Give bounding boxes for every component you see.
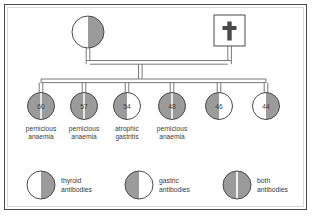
sibship-line [41,79,266,83]
legend-symbol-gastric [125,171,153,199]
sibship-descent-line [139,64,143,79]
legend-label-gastric-line2: antibodies [159,186,190,194]
g1-mother-right-half [88,16,104,48]
legend-label-both-line1: both [257,177,270,185]
legend-gastric-left-half [125,171,139,199]
legend-gastric-right-half [139,171,153,199]
g2-sibling-diagnosis-48-line1: pernicious [142,125,202,133]
legend-label-gastric-line1: gastric [159,177,179,185]
legend-both-right-half [237,171,251,199]
g2-sibling-age-57: 57 [72,103,96,110]
legend-thyroid-left-half [27,171,41,199]
legend-thyroid-right-half [41,171,55,199]
pedigree-lines [39,46,268,93]
g2-sibling-diagnosis-48-line2: anaemia [142,133,202,141]
sibling-drop-lines [39,83,268,93]
legend-label-thyroid-line1: thyroid [61,177,81,185]
g2-sibling-age-60: 60 [29,103,53,110]
g1-father-symbol[interactable] [214,15,245,46]
g2-sibling-age-54: 54 [115,103,139,110]
legend-both-left-half [223,171,237,199]
g2-sibling-age-44: 44 [254,103,278,110]
pedigree-figure: 60 57 54 48 46 44 pernicious anaemia per… [0,0,313,216]
marriage-line [86,61,231,65]
g1-mother-symbol[interactable] [72,16,104,48]
legend-symbol-both [223,171,251,199]
father-descent-line [228,46,232,61]
g1-mother-left-half [72,16,88,48]
legend-label-thyroid-line2: antibodies [61,186,92,194]
g2-sibling-age-46: 46 [207,103,231,110]
legend-symbol-thyroid [27,171,55,199]
legend-label-both-line2: antibodies [257,186,288,194]
g2-sibling-age-48: 48 [160,103,184,110]
mother-descent-line [86,48,90,61]
